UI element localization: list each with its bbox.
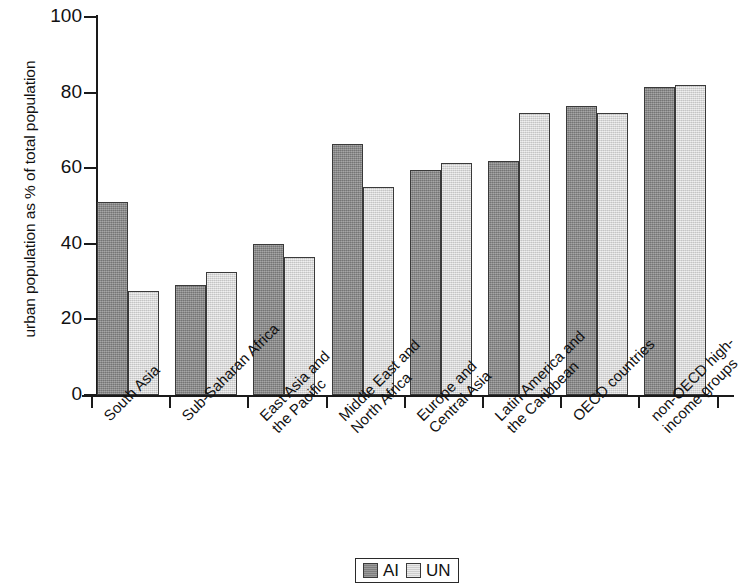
legend-entry-un: UN [406, 561, 451, 581]
legend-entry-ai: AI [363, 561, 399, 581]
bar-group [97, 0, 159, 396]
bar-ai [488, 161, 519, 395]
bar-group [644, 0, 706, 396]
legend-label: UN [426, 561, 451, 581]
bar-group [332, 0, 394, 396]
bar-group [410, 0, 472, 396]
x-axis-category-labels: South AsiaSub-Saharan AfricaEast Asia an… [0, 396, 734, 546]
legend-swatch-icon [363, 563, 378, 578]
bar-ai [97, 202, 128, 395]
bar-group [175, 0, 237, 396]
bar-un [597, 113, 628, 395]
bar-ai [332, 144, 363, 395]
legend-swatch-icon [406, 563, 421, 578]
bar-ai [175, 285, 206, 395]
bar-un [519, 113, 550, 395]
bars-layer [0, 0, 734, 396]
bar-group [488, 0, 550, 396]
bar-un [675, 85, 706, 395]
legend-label: AI [383, 561, 399, 581]
chart-legend: AIUN [355, 558, 459, 583]
